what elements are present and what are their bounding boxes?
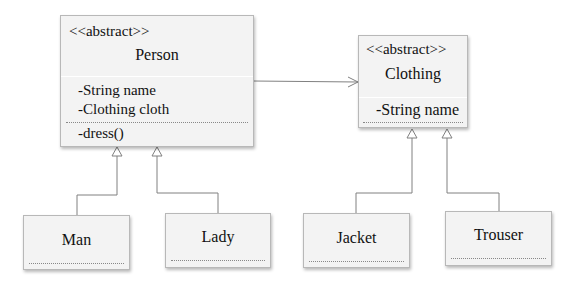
compartment-divider: [359, 97, 467, 98]
generalization-lady-person: [152, 147, 218, 213]
class-name: Lady: [166, 228, 270, 246]
class-lady[interactable]: Lady: [165, 213, 271, 268]
method-divider: [66, 122, 248, 123]
compartment-divider: [29, 263, 124, 264]
method-divider: [363, 122, 463, 123]
method: -dress(): [78, 124, 124, 142]
stereotype-label: <<abstract>>: [69, 23, 149, 40]
compartment-divider: [171, 260, 265, 261]
class-name: Clothing: [359, 65, 467, 83]
compartment-divider: [61, 76, 253, 77]
generalization-jacket-clothing: [356, 129, 417, 213]
class-person[interactable]: <<abstract>> Person -String name -Clothi…: [60, 15, 254, 147]
class-trouser[interactable]: Trouser: [445, 211, 552, 266]
class-jacket[interactable]: Jacket: [303, 213, 410, 268]
attribute: -String name: [78, 81, 156, 99]
class-name: Person: [61, 46, 253, 64]
compartment-divider: [451, 258, 546, 259]
generalization-man-person: [77, 147, 122, 215]
attribute: -String name: [376, 101, 459, 119]
class-name: Man: [24, 231, 129, 249]
class-man[interactable]: Man: [23, 215, 130, 270]
stereotype-label: <<abstract>>: [366, 41, 446, 58]
class-name: Trouser: [446, 226, 551, 244]
compartment-divider: [309, 261, 404, 262]
generalization-trouser-clothing: [442, 129, 499, 211]
class-name: Jacket: [304, 229, 409, 247]
association-arrow: [253, 77, 358, 87]
class-clothing[interactable]: <<abstract>> Clothing -String name: [358, 35, 468, 128]
attribute: -Clothing cloth: [78, 100, 169, 118]
